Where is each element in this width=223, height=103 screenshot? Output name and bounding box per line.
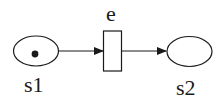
place-s2[interactable] (167, 37, 212, 67)
place-s2-label: s2 (176, 75, 196, 100)
place-s1[interactable] (14, 36, 59, 66)
petri-net-diagram: s1 e s2 (0, 0, 223, 103)
token-icon (32, 51, 39, 58)
transition-e[interactable] (104, 31, 122, 71)
place-s1-label: s1 (24, 72, 44, 97)
transition-e-label: e (106, 1, 116, 26)
